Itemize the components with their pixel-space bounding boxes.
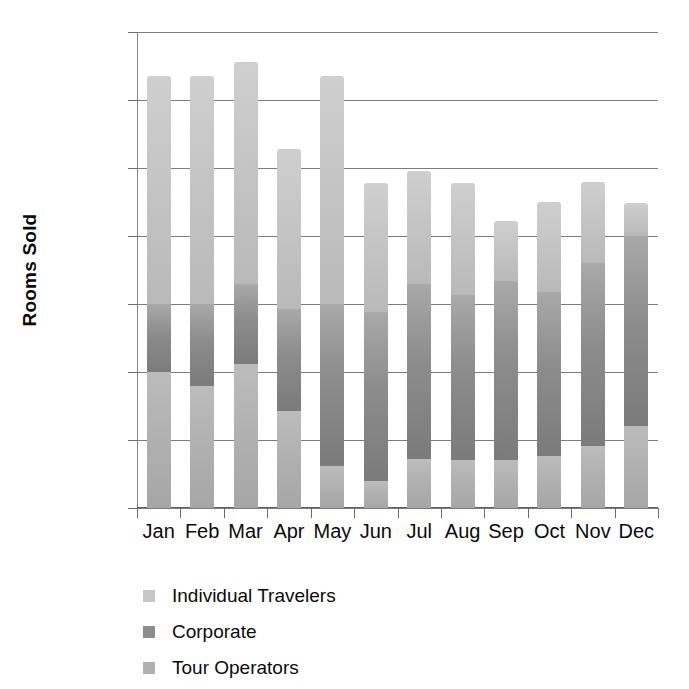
bar-stack[interactable] [277, 149, 301, 508]
legend-item[interactable]: Tour Operators [143, 650, 563, 686]
bar-segment-tour-operators[interactable] [451, 460, 475, 508]
bar-segment-individual-travelers[interactable] [234, 62, 258, 284]
legend-item[interactable]: Corporate [143, 614, 563, 650]
y-axis-title-label: Rooms Sold [19, 214, 41, 327]
bar-stack[interactable] [147, 76, 171, 508]
bar-segment-individual-travelers[interactable] [581, 182, 605, 263]
bar-stack[interactable] [494, 221, 518, 508]
x-tick-mark [311, 508, 312, 518]
bar-segment-individual-travelers[interactable] [147, 76, 171, 304]
bar-segment-tour-operators[interactable] [147, 372, 171, 508]
bar-group[interactable] [277, 32, 301, 508]
gridline [137, 440, 658, 441]
bar-group[interactable] [364, 32, 388, 508]
bar-segment-corporate[interactable] [537, 292, 561, 457]
bar-group[interactable] [537, 32, 561, 508]
bar-segment-individual-travelers[interactable] [624, 203, 648, 236]
bar-segment-corporate[interactable] [581, 263, 605, 447]
bar-group[interactable] [494, 32, 518, 508]
bar-segment-corporate[interactable] [147, 304, 171, 372]
bar-segment-tour-operators[interactable] [320, 466, 344, 508]
bar-segment-corporate[interactable] [320, 304, 344, 466]
bar-segment-corporate[interactable] [190, 304, 214, 386]
bar-segment-corporate[interactable] [364, 312, 388, 481]
bar-segment-tour-operators[interactable] [364, 481, 388, 508]
bar-stack[interactable] [190, 76, 214, 508]
x-tick-label: Feb [185, 520, 219, 543]
bar-segment-individual-travelers[interactable] [407, 171, 431, 284]
legend-label: Individual Travelers [172, 585, 336, 607]
x-tick-label: Oct [534, 520, 565, 543]
bar-segment-individual-travelers[interactable] [537, 202, 561, 292]
bar-segment-individual-travelers[interactable] [190, 76, 214, 304]
gridline [137, 372, 658, 373]
bar-segment-tour-operators[interactable] [537, 456, 561, 508]
x-tick-mark [267, 508, 268, 518]
bar-stack[interactable] [407, 171, 431, 508]
bar-segment-tour-operators[interactable] [494, 460, 518, 508]
y-axis-line [137, 32, 138, 508]
x-tick-label: Sep [488, 520, 524, 543]
bar-group[interactable] [190, 32, 214, 508]
x-tick-label: Jul [406, 520, 432, 543]
x-tick-mark [441, 508, 442, 518]
bar-group[interactable] [407, 32, 431, 508]
bar-segment-corporate[interactable] [494, 281, 518, 461]
x-tick-mark [398, 508, 399, 518]
legend-label: Corporate [172, 621, 257, 643]
bar-stack[interactable] [320, 76, 344, 508]
legend-swatch-icon [143, 662, 155, 674]
legend-swatch-icon [143, 590, 155, 602]
bar-segment-corporate[interactable] [624, 236, 648, 426]
y-tick-mark [128, 168, 137, 169]
x-tick-label: Jan [143, 520, 175, 543]
x-tick-mark [354, 508, 355, 518]
bar-segment-tour-operators[interactable] [234, 364, 258, 508]
x-tick-mark [180, 508, 181, 518]
bar-segment-tour-operators[interactable] [581, 446, 605, 508]
bar-segment-individual-travelers[interactable] [277, 149, 301, 309]
bar-group[interactable] [147, 32, 171, 508]
x-axis-labels: JanFebMarAprMayJunJulAugSepOctNovDec [137, 520, 658, 550]
bar-stack[interactable] [537, 202, 561, 508]
x-tick-label: Jun [360, 520, 392, 543]
gridline [137, 236, 658, 237]
bar-segment-corporate[interactable] [451, 295, 475, 460]
x-tick-mark [224, 508, 225, 518]
legend-item[interactable]: Individual Travelers [143, 578, 563, 614]
bar-stack[interactable] [234, 62, 258, 508]
x-tick-mark [615, 508, 616, 518]
bar-segment-tour-operators[interactable] [624, 426, 648, 508]
gridline [137, 168, 658, 169]
stacked-bar-chart: Rooms Sold 0500100015002000250030003500 … [0, 0, 689, 689]
bar-stack[interactable] [451, 183, 475, 508]
bar-segment-tour-operators[interactable] [407, 459, 431, 508]
bar-segment-corporate[interactable] [407, 284, 431, 459]
y-tick-mark [128, 440, 137, 441]
bar-segment-individual-travelers[interactable] [320, 76, 344, 304]
bar-segment-individual-travelers[interactable] [451, 183, 475, 295]
bar-stack[interactable] [624, 203, 648, 508]
x-tick-label: Mar [228, 520, 262, 543]
y-tick-mark [128, 32, 137, 33]
gridline [137, 32, 658, 33]
bar-stack[interactable] [581, 182, 605, 508]
y-axis-title: Rooms Sold [8, 0, 52, 540]
bar-group[interactable] [451, 32, 475, 508]
bar-group[interactable] [234, 32, 258, 508]
bar-group[interactable] [581, 32, 605, 508]
bar-group[interactable] [320, 32, 344, 508]
bar-stack[interactable] [364, 183, 388, 508]
bar-segment-tour-operators[interactable] [190, 386, 214, 508]
bar-segment-corporate[interactable] [277, 309, 301, 411]
y-tick-mark [128, 508, 137, 509]
legend-label: Tour Operators [172, 657, 299, 679]
x-tick-label: Dec [618, 520, 654, 543]
bar-group[interactable] [624, 32, 648, 508]
bar-segment-corporate[interactable] [234, 284, 258, 364]
bar-segment-tour-operators[interactable] [277, 411, 301, 508]
bar-segment-individual-travelers[interactable] [494, 221, 518, 281]
bar-segment-individual-travelers[interactable] [364, 183, 388, 312]
x-tick-label: Aug [445, 520, 481, 543]
x-tick-mark [484, 508, 485, 518]
